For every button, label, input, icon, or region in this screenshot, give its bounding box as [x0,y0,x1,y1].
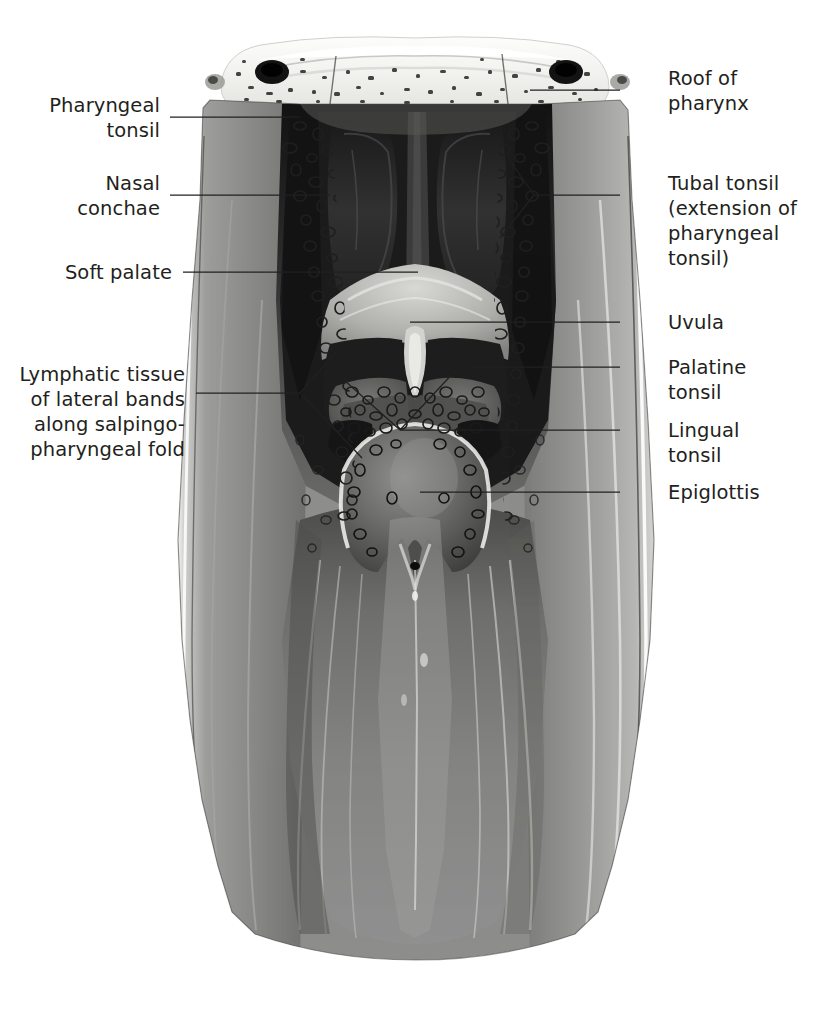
pharynx-anatomical-illustration [0,0,830,1012]
label-palatine-tonsil: Palatine tonsil [668,355,746,405]
label-pharyngeal-tonsil: Pharyngeal tonsil [0,93,160,143]
label-uvula: Uvula [668,310,724,335]
label-nasal-conchae: Nasal conchae [0,171,160,221]
label-roof-of-pharynx: Roof of pharynx [668,66,749,116]
illustration-canvas: Roof of pharynx Pharyngeal tonsil Nasal … [0,0,830,1012]
label-epiglottis: Epiglottis [668,480,760,505]
label-tubal-tonsil: Tubal tonsil (extension of pharyngeal to… [668,171,797,271]
label-lymphatic-tissue: Lymphatic tissue of lateral bands along … [0,362,185,462]
label-lingual-tonsil: Lingual tonsil [668,418,739,468]
pharynx-specimen [170,96,670,980]
label-soft-palate: Soft palate [0,260,172,285]
